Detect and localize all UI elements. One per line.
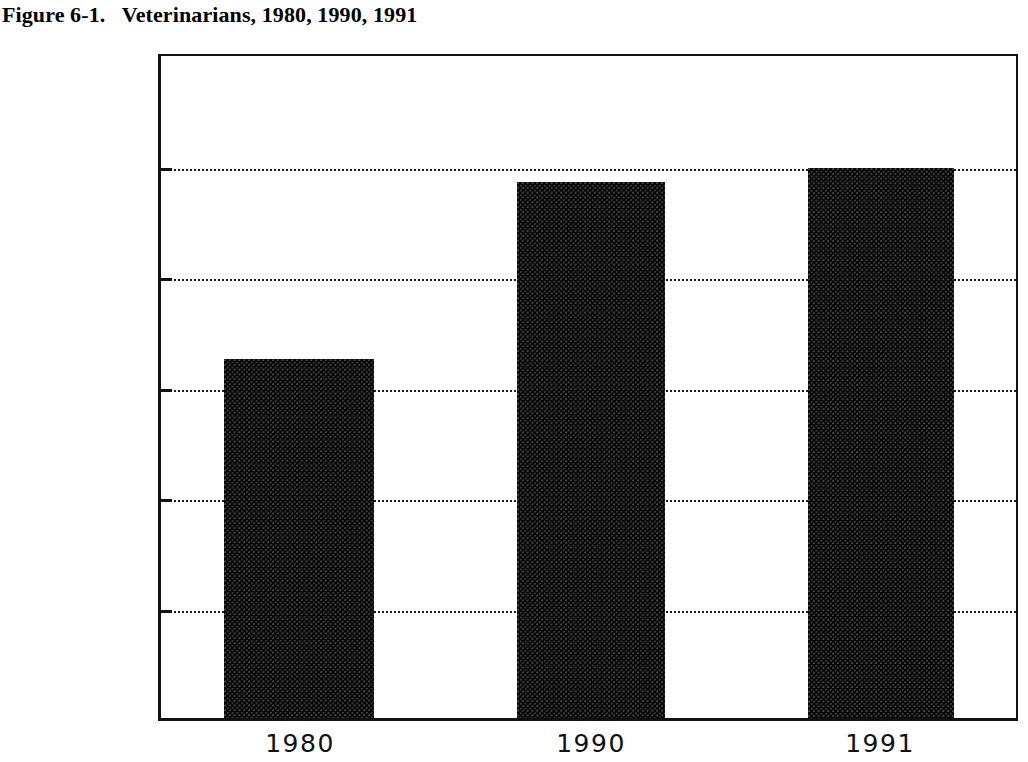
bar-1991 [808,168,954,718]
x-tick-label-1990: 1990 [516,731,666,756]
x-tick-label-1980: 1980 [224,731,376,756]
y-tick-10000 [161,610,172,613]
bar-1990 [517,182,665,718]
y-tick-20000 [161,499,172,502]
plot-area [158,54,1018,721]
bar-chart: 60,000 50,000 40,000 30,000 20,000 10,00… [0,0,1028,762]
x-tick-label-1991: 1991 [806,731,954,756]
y-tick-50000 [161,168,172,171]
y-tick-40000 [161,278,172,281]
y-tick-30000 [161,389,172,392]
bar-1980 [224,359,374,718]
